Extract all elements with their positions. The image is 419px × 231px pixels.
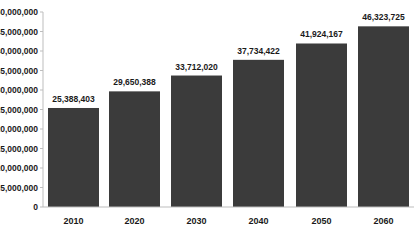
bar-value-label: 37,734,422 <box>237 46 280 56</box>
bar-value-label: 46,323,725 <box>362 12 405 22</box>
bar-2030 <box>171 76 222 207</box>
x-axis: 201020202030204020502060 <box>43 207 414 226</box>
y-axis: 05,000,00010,000,00015,000,00020,000,000… <box>0 7 43 212</box>
bar-value-label: 25,388,403 <box>52 94 95 104</box>
y-tick-label: 35,000,000 <box>0 66 38 76</box>
x-category-label: 2060 <box>373 216 393 226</box>
x-category-label: 2040 <box>248 216 268 226</box>
x-category-label: 2030 <box>186 216 206 226</box>
bar-2060 <box>358 26 409 207</box>
y-tick-label: 20,000,000 <box>0 124 38 134</box>
bar-2020 <box>109 91 160 207</box>
bar-2040 <box>233 60 284 207</box>
bars: 25,388,40329,650,38833,712,02037,734,422… <box>48 12 409 207</box>
y-tick-label: 5,000,000 <box>0 183 38 193</box>
x-category-label: 2050 <box>311 216 331 226</box>
y-tick-label: 0 <box>33 202 38 212</box>
x-category-label: 2010 <box>63 216 83 226</box>
bar-value-label: 29,650,388 <box>113 77 156 87</box>
y-tick-label: 45,000,000 <box>0 27 38 37</box>
y-tick-label: 50,000,000 <box>0 7 38 17</box>
x-category-label: 2020 <box>124 216 144 226</box>
y-tick-label: 25,000,000 <box>0 105 38 115</box>
bar-value-label: 41,924,167 <box>300 29 343 39</box>
y-tick-label: 15,000,000 <box>0 144 38 154</box>
bar-value-label: 33,712,020 <box>175 62 218 72</box>
bar-2050 <box>296 43 347 207</box>
y-tick-label: 10,000,000 <box>0 163 38 173</box>
y-tick-label: 30,000,000 <box>0 85 38 95</box>
bar-chart: 05,000,00010,000,00015,000,00020,000,000… <box>0 0 419 231</box>
y-tick-label: 40,000,000 <box>0 46 38 56</box>
bar-2010 <box>48 108 99 207</box>
